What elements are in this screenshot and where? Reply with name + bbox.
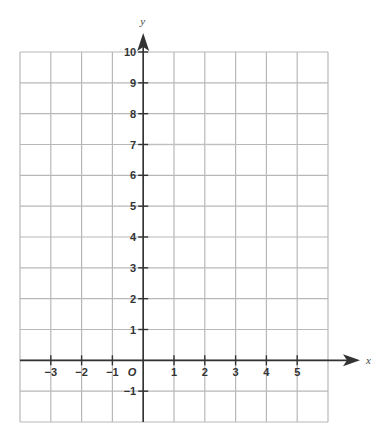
x-tick-label: −2 xyxy=(75,366,88,378)
y-tick-label: 6 xyxy=(130,169,136,181)
y-tick-label: −1 xyxy=(124,385,137,397)
coordinate-grid-chart: xy−3−2−11234510987654321−1O xyxy=(0,0,376,438)
y-tick-label: 10 xyxy=(124,46,136,58)
y-tick-label: 1 xyxy=(130,324,136,336)
y-tick-label: 3 xyxy=(130,262,136,274)
y-tick-label: 2 xyxy=(130,293,136,305)
y-tick-label: 9 xyxy=(130,77,136,89)
y-tick-label: 4 xyxy=(130,231,137,243)
y-axis-label: y xyxy=(139,15,145,27)
x-tick-label: −3 xyxy=(45,366,58,378)
origin-label: O xyxy=(128,366,137,378)
x-tick-label: 1 xyxy=(171,366,177,378)
x-tick-label: −1 xyxy=(106,366,119,378)
x-tick-label: 2 xyxy=(202,366,208,378)
x-tick-label: 3 xyxy=(233,366,239,378)
x-axis-label: x xyxy=(365,354,371,366)
y-tick-label: 7 xyxy=(130,139,136,151)
x-tick-label: 5 xyxy=(294,366,300,378)
x-tick-label: 4 xyxy=(263,366,270,378)
y-tick-label: 5 xyxy=(130,200,136,212)
y-tick-label: 8 xyxy=(130,108,136,120)
